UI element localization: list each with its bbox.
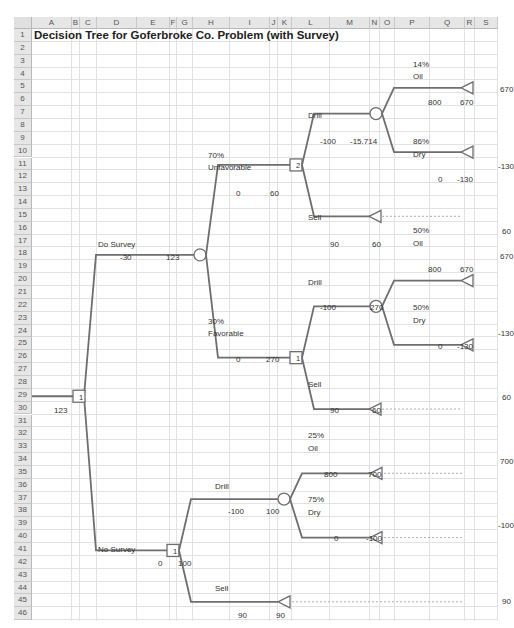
- row-header-35[interactable]: 35: [14, 466, 32, 479]
- ns-dry-label: Dry: [308, 508, 320, 518]
- column-header-p[interactable]: P: [395, 17, 430, 29]
- column-header-a[interactable]: A: [32, 17, 72, 29]
- fav-sell-payoff: 60: [502, 393, 511, 403]
- row-header-29[interactable]: 29: [14, 389, 32, 402]
- row-header-3[interactable]: 3: [14, 55, 32, 68]
- fav-drill-cost: -100: [320, 303, 336, 313]
- column-header-c[interactable]: C: [80, 17, 97, 29]
- survey-chance-node: [194, 249, 206, 261]
- ns-sell-label: Sell: [215, 584, 228, 594]
- column-header-i[interactable]: I: [230, 17, 270, 29]
- row-header-9[interactable]: 9: [14, 132, 32, 145]
- row-header-4[interactable]: 4: [14, 68, 32, 81]
- select-all-corner[interactable]: [14, 17, 32, 29]
- row-header-2[interactable]: 2: [14, 42, 32, 55]
- row-header-12[interactable]: 12: [14, 170, 32, 183]
- favorable-decision-node-label: 1: [296, 354, 300, 363]
- row-header-19[interactable]: 19: [14, 260, 32, 273]
- row-header-16[interactable]: 16: [14, 222, 32, 235]
- unfav-dry-terminal: [461, 146, 473, 158]
- unfav-dry-label: Dry: [413, 150, 425, 160]
- row-header-33[interactable]: 33: [14, 440, 32, 453]
- row-header-21[interactable]: 21: [14, 286, 32, 299]
- row-header-1[interactable]: 1: [14, 29, 32, 42]
- row-header-5[interactable]: 5: [14, 80, 32, 93]
- unfav-sell-label: Sell: [308, 213, 321, 223]
- row-header-43[interactable]: 43: [14, 569, 32, 582]
- unfavorable-prob: 70%: [208, 151, 224, 161]
- row-header-27[interactable]: 27: [14, 363, 32, 376]
- row-header-11[interactable]: 11: [14, 158, 32, 171]
- fav-sell-cash: 90: [330, 406, 339, 416]
- row-header-22[interactable]: 22: [14, 299, 32, 312]
- root-decision-node-label: 1: [79, 393, 83, 402]
- row-header-20[interactable]: 20: [14, 273, 32, 286]
- unfav-dry-cash: 0: [438, 175, 442, 185]
- column-header-d[interactable]: D: [97, 17, 137, 29]
- fav-dry-label: Dry: [413, 316, 425, 326]
- row-header-25[interactable]: 25: [14, 337, 32, 350]
- row-header-42[interactable]: 42: [14, 556, 32, 569]
- column-header-r[interactable]: R: [465, 17, 475, 29]
- column-header-f[interactable]: F: [170, 17, 177, 29]
- fav-dry-prob: 50%: [413, 303, 429, 313]
- unfav-drill-chance-node: [370, 108, 382, 120]
- unfav-sell-cash: 90: [330, 240, 339, 250]
- row-header-36[interactable]: 36: [14, 479, 32, 492]
- ns-dry-payoff: -100: [498, 521, 514, 531]
- row-header-10[interactable]: 10: [14, 145, 32, 158]
- cell-grid[interactable]: 1211 Decision Tree for Goferbroke Co. Pr…: [32, 29, 498, 621]
- column-header-h[interactable]: H: [193, 17, 230, 29]
- row-header-23[interactable]: 23: [14, 312, 32, 325]
- row-header-31[interactable]: 31: [14, 415, 32, 428]
- fav-drill-branch: [302, 306, 370, 357]
- unfavorable-value: 60: [270, 189, 279, 199]
- column-header-b[interactable]: B: [72, 17, 80, 29]
- ns-sell-payoff: 90: [502, 597, 511, 607]
- unfav-oil-branch: [382, 88, 461, 114]
- column-header-s[interactable]: S: [475, 17, 498, 29]
- row-header-32[interactable]: 32: [14, 427, 32, 440]
- row-header-44[interactable]: 44: [14, 582, 32, 595]
- row-header-30[interactable]: 30: [14, 402, 32, 415]
- row-header-39[interactable]: 39: [14, 517, 32, 530]
- column-header-o[interactable]: O: [380, 17, 395, 29]
- fav-drill-label: Drill: [308, 278, 322, 288]
- row-header-8[interactable]: 8: [14, 119, 32, 132]
- row-header-41[interactable]: 41: [14, 543, 32, 556]
- row-header-18[interactable]: 18: [14, 247, 32, 260]
- row-header-38[interactable]: 38: [14, 504, 32, 517]
- ns-oil-cash: 800: [324, 470, 337, 480]
- do-survey-cost: -30: [120, 253, 132, 263]
- row-header-40[interactable]: 40: [14, 530, 32, 543]
- column-header-j[interactable]: J: [270, 17, 278, 29]
- row-header-17[interactable]: 17: [14, 235, 32, 248]
- spreadsheet[interactable]: ABCDEFGHIJKLMNOPQRS 12345678910111213141…: [14, 17, 498, 621]
- fav-oil-terminal: [461, 275, 473, 287]
- column-header-m[interactable]: M: [330, 17, 370, 29]
- row-header-45[interactable]: 45: [14, 594, 32, 607]
- row-header-15[interactable]: 15: [14, 209, 32, 222]
- fav-oil-value: 670: [460, 265, 473, 275]
- column-header-g[interactable]: G: [177, 17, 193, 29]
- do-survey-branch: [84, 255, 200, 396]
- no-survey-branch: [84, 396, 167, 550]
- row-header-26[interactable]: 26: [14, 350, 32, 363]
- ns-oil-value: 700: [368, 470, 381, 480]
- column-header-n[interactable]: N: [370, 17, 380, 29]
- row-header-13[interactable]: 13: [14, 183, 32, 196]
- row-header-28[interactable]: 28: [14, 376, 32, 389]
- row-header-46[interactable]: 46: [14, 607, 32, 620]
- column-header-l[interactable]: L: [292, 17, 330, 29]
- row-header-37[interactable]: 37: [14, 492, 32, 505]
- unfav-sell-value: 60: [372, 240, 381, 250]
- column-header-q[interactable]: Q: [430, 17, 465, 29]
- row-header-24[interactable]: 24: [14, 325, 32, 338]
- row-header-6[interactable]: 6: [14, 93, 32, 106]
- fav-dry-cash: 0: [438, 342, 442, 352]
- column-header-k[interactable]: K: [278, 17, 292, 29]
- row-header-7[interactable]: 7: [14, 106, 32, 119]
- row-header-14[interactable]: 14: [14, 196, 32, 209]
- column-header-e[interactable]: E: [137, 17, 170, 29]
- row-header-34[interactable]: 34: [14, 453, 32, 466]
